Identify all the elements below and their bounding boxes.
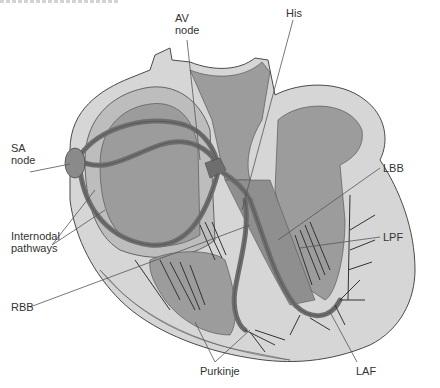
label-sa-node: SA node (11, 142, 35, 166)
label-his: His (286, 7, 302, 19)
label-lbb: LBB (383, 162, 404, 174)
label-laf: LAF (356, 365, 376, 377)
label-purkinje: Purkinje (200, 365, 240, 377)
heart-illustration (0, 0, 440, 388)
sa-node-shape (65, 148, 85, 178)
conduction-diagram: AV node His SA node LBB Internodal pathw… (0, 0, 440, 388)
label-internodal-pathways: Internodal pathways (11, 230, 60, 254)
label-lpf: LPF (383, 231, 403, 243)
label-av-node: AV node (175, 12, 199, 36)
label-rbb: RBB (11, 301, 34, 313)
